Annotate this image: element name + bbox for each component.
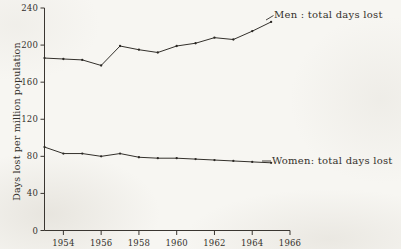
men-data-point	[251, 30, 253, 32]
axes	[45, 8, 291, 231]
women-data-point	[81, 152, 83, 154]
y-tick-label: 240	[8, 3, 38, 13]
women-data-point	[138, 156, 140, 158]
x-tick-label: 1956	[90, 238, 112, 248]
men-data-point	[100, 64, 102, 66]
men-series-label: Men : total days lost	[274, 9, 383, 20]
chart-figure: 04080120160200240 1954195619581960196219…	[0, 0, 401, 249]
men-data-point	[157, 51, 159, 53]
women-data-point	[119, 152, 121, 154]
women-data-point	[251, 161, 253, 163]
women-data-point	[43, 146, 45, 148]
men-series-line	[45, 22, 272, 66]
women-data-point	[232, 160, 234, 162]
men-leader-line	[266, 16, 274, 21]
men-data-point	[43, 57, 45, 59]
annotation-leader-lines	[262, 16, 274, 162]
y-axis-title: Days lost per million population	[11, 22, 22, 222]
men-data-point	[232, 38, 234, 40]
men-data-point	[270, 21, 272, 23]
x-tick-label: 1960	[165, 238, 187, 248]
y-axis-ticks	[41, 8, 45, 231]
x-axis-ticks	[63, 231, 290, 236]
x-tick-label: 1962	[203, 238, 225, 248]
men-data-point	[119, 45, 121, 47]
women-data-point	[157, 157, 159, 159]
women-data-point	[194, 158, 196, 160]
men-data-point	[194, 42, 196, 44]
women-data-point	[213, 159, 215, 161]
x-tick-label: 1966	[279, 238, 301, 248]
plot-canvas	[0, 0, 401, 249]
men-data-point	[213, 37, 215, 39]
women-series-line	[45, 147, 272, 163]
women-data-point	[100, 155, 102, 157]
women-series-label: Women: total days lost	[272, 155, 393, 166]
men-data-point	[176, 45, 178, 47]
women-data-point	[176, 157, 178, 159]
men-data-point	[138, 49, 140, 51]
men-data-point	[62, 58, 64, 60]
men-data-point	[81, 59, 83, 61]
x-tick-label: 1964	[241, 238, 263, 248]
x-tick-label: 1958	[128, 238, 150, 248]
x-tick-label: 1954	[52, 238, 74, 248]
y-tick-label: 0	[8, 226, 38, 236]
women-data-point	[62, 152, 64, 154]
data-series-group	[43, 21, 272, 164]
